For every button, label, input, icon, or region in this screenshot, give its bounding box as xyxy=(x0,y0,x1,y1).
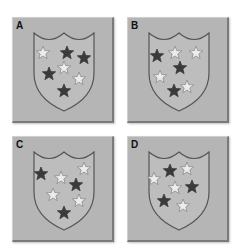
panel-a: A xyxy=(12,17,114,123)
shield-b xyxy=(128,18,230,124)
panel-c: C xyxy=(12,136,114,242)
panel-label-a: A xyxy=(16,21,23,31)
panel-label-d: D xyxy=(131,140,138,150)
panel-label-c: C xyxy=(16,140,23,150)
shield-outline xyxy=(149,152,209,230)
shield-c xyxy=(13,137,115,243)
panel-label-b: B xyxy=(131,21,138,31)
shield-d xyxy=(128,137,230,243)
shield-a xyxy=(13,18,115,124)
panel-b: B xyxy=(127,17,229,123)
panel-d: D xyxy=(127,136,229,242)
